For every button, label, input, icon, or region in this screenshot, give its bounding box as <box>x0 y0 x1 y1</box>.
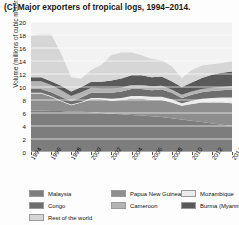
stacked-area-series <box>31 22 232 152</box>
legend-label: Rest of the world <box>48 215 92 221</box>
y-tick-label: 10 <box>0 84 26 91</box>
chart-title: (C) Major exporters of tropical logs, 19… <box>4 2 238 12</box>
figure-panel-c: (C) Major exporters of tropical logs, 19… <box>0 0 239 225</box>
y-tick-label: 14 <box>0 58 26 65</box>
y-tick-label: 0 <box>0 149 26 156</box>
legend-item: Congo <box>29 196 65 205</box>
y-tick-label: 8 <box>0 97 26 104</box>
y-tick-label: 4 <box>0 123 26 130</box>
legend-swatch <box>29 214 44 221</box>
y-tick-label: 6 <box>0 110 26 117</box>
chart-legend: MalaysiaPapua New GuineaMozambiqueCongoC… <box>29 184 235 222</box>
legend-item: Cameroon <box>111 196 158 205</box>
legend-item: Rest of the world <box>29 208 92 217</box>
legend-item: Papua New Guinea <box>111 184 181 193</box>
y-tick-label: 2 <box>0 136 26 143</box>
legend-label: Burma (Myanmar) <box>200 203 239 209</box>
legend-item: Mozambique <box>181 184 234 193</box>
y-tick-label: 12 <box>0 71 26 78</box>
legend-item: Malaysia <box>29 184 71 193</box>
legend-swatch <box>111 202 126 209</box>
y-tick-label: 16 <box>0 45 26 52</box>
legend-swatch <box>181 202 196 209</box>
y-tick-label: 20 <box>0 19 26 26</box>
legend-item: Burma (Myanmar) <box>181 196 239 205</box>
y-tick-label: 18 <box>0 32 26 39</box>
legend-label: Cameroon <box>130 203 158 209</box>
chart-title-text: Major exporters of tropical logs, 1994–2… <box>18 2 190 12</box>
plot-area <box>31 22 232 152</box>
